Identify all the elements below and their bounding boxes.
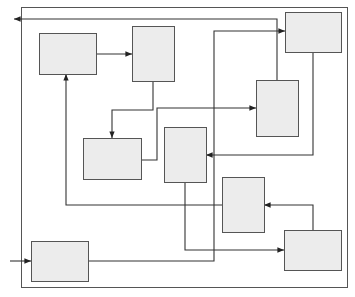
block-g	[223, 178, 265, 233]
block-a	[40, 34, 97, 75]
block-i	[285, 231, 342, 271]
block-f	[165, 128, 207, 183]
arrow-b-to-e	[112, 81, 153, 138]
blocks	[32, 13, 342, 282]
block-d	[257, 81, 299, 137]
block-diagram	[0, 0, 355, 297]
block-h	[32, 242, 89, 282]
block-c	[286, 13, 342, 53]
block-e	[84, 139, 142, 180]
arrow-i-to-g	[264, 205, 313, 230]
block-b	[133, 27, 175, 82]
